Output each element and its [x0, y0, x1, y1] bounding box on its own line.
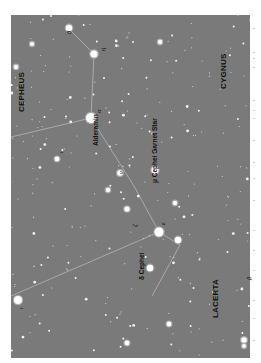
- faint-star: [237, 290, 238, 291]
- faint-star: [201, 131, 202, 132]
- faint-star: [94, 82, 95, 83]
- faint-star: [80, 227, 81, 228]
- faint-star: [184, 124, 185, 125]
- faint-star: [159, 102, 160, 103]
- faint-star: [143, 238, 144, 239]
- greek-letter-label: ε: [160, 222, 166, 225]
- bright-star: [14, 65, 18, 69]
- faint-star: [147, 88, 148, 89]
- faint-star: [69, 96, 72, 99]
- faint-star: [145, 77, 147, 79]
- constellation-label: LACERTA: [211, 279, 220, 318]
- faint-star: [83, 24, 85, 26]
- edge-tick: [253, 250, 255, 251]
- faint-star: [182, 234, 183, 235]
- faint-star: [11, 227, 12, 228]
- greek-letter-label: η: [100, 48, 106, 51]
- faint-star: [145, 256, 147, 258]
- constellation-line: [152, 245, 180, 296]
- faint-star: [42, 126, 43, 127]
- faint-star: [96, 41, 98, 43]
- faint-star: [199, 257, 200, 258]
- faint-star: [39, 121, 40, 122]
- bright-star: [124, 206, 129, 211]
- faint-star: [172, 72, 173, 73]
- faint-star: [144, 115, 146, 117]
- faint-star: [32, 193, 33, 194]
- faint-star: [248, 305, 250, 307]
- edge-tick: [253, 118, 255, 119]
- edge-tick: [253, 230, 255, 231]
- faint-star: [78, 15, 79, 16]
- faint-star: [190, 283, 191, 284]
- edge-tick: [253, 140, 255, 141]
- faint-star: [70, 65, 71, 66]
- faint-star: [68, 71, 69, 72]
- faint-star: [233, 26, 235, 28]
- faint-star: [186, 105, 189, 108]
- faint-star: [119, 314, 120, 315]
- faint-star: [31, 87, 32, 88]
- faint-star: [242, 321, 243, 322]
- faint-star: [51, 287, 52, 288]
- faint-star: [129, 166, 130, 167]
- faint-star: [50, 15, 52, 17]
- faint-star: [161, 142, 162, 143]
- faint-star: [209, 72, 210, 73]
- faint-star: [141, 128, 142, 129]
- faint-star: [118, 45, 119, 46]
- faint-star: [31, 70, 32, 71]
- faint-star: [64, 148, 65, 149]
- bright-star: [242, 344, 246, 348]
- edge-tick: [253, 67, 255, 68]
- faint-star: [52, 182, 53, 183]
- constellation-line: [11, 232, 159, 296]
- faint-star: [39, 322, 41, 324]
- faint-star: [178, 206, 180, 208]
- faint-star: [137, 195, 140, 198]
- faint-star: [137, 122, 138, 123]
- faint-star: [173, 257, 174, 258]
- faint-star: [32, 168, 33, 169]
- bright-star: [173, 201, 177, 205]
- faint-star: [30, 38, 31, 39]
- faint-star: [43, 143, 46, 146]
- faint-star: [226, 205, 227, 206]
- faint-star: [237, 219, 238, 220]
- faint-star: [116, 144, 117, 145]
- edge-tick: [253, 318, 255, 319]
- faint-star: [116, 317, 118, 319]
- faint-star: [105, 314, 107, 316]
- faint-star: [110, 321, 111, 322]
- faint-star: [179, 350, 180, 351]
- faint-star: [232, 232, 235, 235]
- faint-star: [191, 47, 192, 48]
- faint-star: [246, 178, 249, 181]
- faint-star: [246, 105, 247, 106]
- faint-star: [42, 294, 44, 296]
- faint-star: [191, 37, 192, 38]
- faint-star: [17, 199, 18, 200]
- faint-star: [189, 234, 190, 235]
- faint-star: [37, 178, 38, 179]
- faint-star: [30, 22, 31, 23]
- faint-star: [166, 61, 167, 62]
- faint-star: [76, 135, 77, 136]
- faint-star: [35, 314, 36, 315]
- faint-star: [240, 223, 241, 224]
- greek-letter-label: ι: [58, 152, 64, 153]
- faint-star: [227, 251, 229, 253]
- faint-star: [197, 252, 198, 253]
- faint-star: [186, 130, 189, 133]
- edge-tick: [253, 110, 255, 111]
- faint-star: [89, 24, 90, 25]
- faint-star: [171, 35, 173, 37]
- faint-star: [191, 214, 193, 216]
- faint-star: [47, 257, 49, 259]
- bright-star: [125, 341, 130, 346]
- faint-star: [43, 71, 44, 72]
- faint-star: [64, 208, 66, 210]
- faint-star: [193, 287, 195, 289]
- faint-star: [189, 301, 191, 303]
- faint-star: [171, 137, 173, 139]
